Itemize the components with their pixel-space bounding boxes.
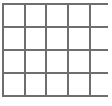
grid-cell-r1-c0[interactable]	[3, 27, 25, 51]
grid-cell-r0-c3[interactable]	[68, 4, 90, 27]
grid-cell-r0-c2[interactable]	[46, 4, 68, 27]
grid-cell-r1-c1[interactable]	[25, 27, 47, 51]
grid-cell-r2-c0[interactable]	[3, 50, 25, 73]
grid-cell-r2-c4[interactable]	[90, 50, 109, 73]
grid-cell-layer	[0, 0, 112, 106]
grid-figure	[0, 0, 112, 106]
grid-cell-r3-c0[interactable]	[3, 73, 25, 96]
grid-cell-r2-c3[interactable]	[68, 50, 90, 73]
grid-cell-r1-c2[interactable]	[46, 27, 68, 51]
grid-cell-r2-c2[interactable]	[46, 50, 68, 73]
grid-cell-r2-c1[interactable]	[25, 50, 47, 73]
grid-cell-r0-c4[interactable]	[90, 4, 109, 27]
grid-cell-r3-c1[interactable]	[25, 73, 47, 96]
grid-cell-r1-c3[interactable]	[68, 27, 90, 51]
grid-cell-r1-c4[interactable]	[90, 27, 109, 51]
grid-cell-r3-c4[interactable]	[90, 73, 109, 96]
grid-cell-r3-c2[interactable]	[46, 73, 68, 96]
grid-cell-r3-c3[interactable]	[68, 73, 90, 96]
grid-cell-r0-c0[interactable]	[3, 4, 25, 27]
grid-cell-r0-c1[interactable]	[25, 4, 47, 27]
